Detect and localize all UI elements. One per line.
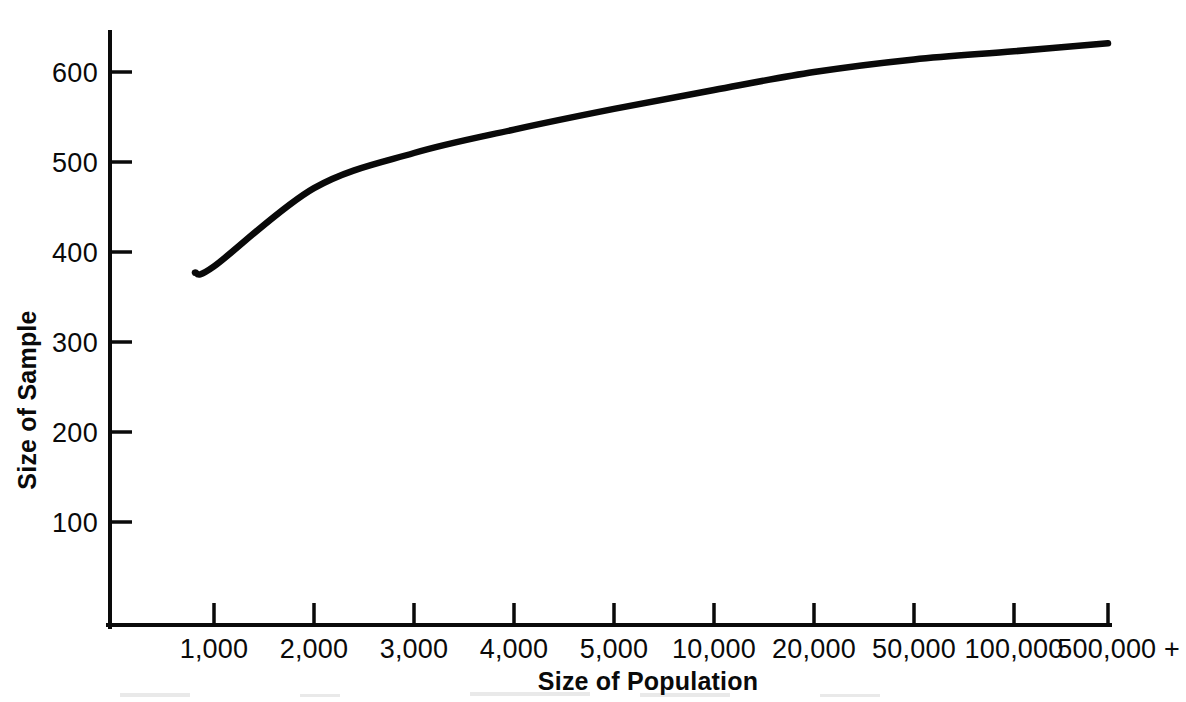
sample-size-curve xyxy=(195,43,1108,274)
y-tick-label-400: 400 xyxy=(52,238,98,268)
chart-canvas: 600 500 400 300 200 100 Size of Sample xyxy=(0,0,1186,702)
x-tick-label-50000: 50,000 xyxy=(872,634,956,664)
x-tick-label-4000: 4,000 xyxy=(480,634,549,664)
scan-artifacts xyxy=(120,692,880,697)
x-tick-label-1000: 1,000 xyxy=(180,634,249,664)
x-axis-ticks xyxy=(214,603,1108,625)
data-series-group xyxy=(195,43,1108,274)
x-tick-label-5000: 5,000 xyxy=(580,634,649,664)
y-tick-label-200: 200 xyxy=(52,418,98,448)
x-tick-label-20000: 20,000 xyxy=(772,634,856,664)
y-axis: 600 500 400 300 200 100 Size of Sample xyxy=(13,32,132,627)
y-tick-label-100: 100 xyxy=(52,508,98,538)
y-axis-ticks xyxy=(110,72,132,522)
x-tick-label-500000-plus: 500,000 + xyxy=(1057,634,1180,664)
y-axis-title: Size of Sample xyxy=(13,310,41,489)
line-chart-figure: 600 500 400 300 200 100 Size of Sample xyxy=(0,0,1186,702)
x-tick-label-2000: 2,000 xyxy=(280,634,349,664)
y-tick-label-300: 300 xyxy=(52,328,98,358)
x-axis-title: Size of Population xyxy=(538,667,758,695)
x-axis: 1,000 2,000 3,000 4,000 5,000 10,000 20,… xyxy=(108,603,1180,695)
x-tick-label-100000: 100,000 xyxy=(965,634,1064,664)
x-tick-label-3000: 3,000 xyxy=(380,634,449,664)
x-tick-label-10000: 10,000 xyxy=(672,634,756,664)
y-tick-label-600: 600 xyxy=(52,58,98,88)
y-tick-label-500: 500 xyxy=(52,148,98,178)
